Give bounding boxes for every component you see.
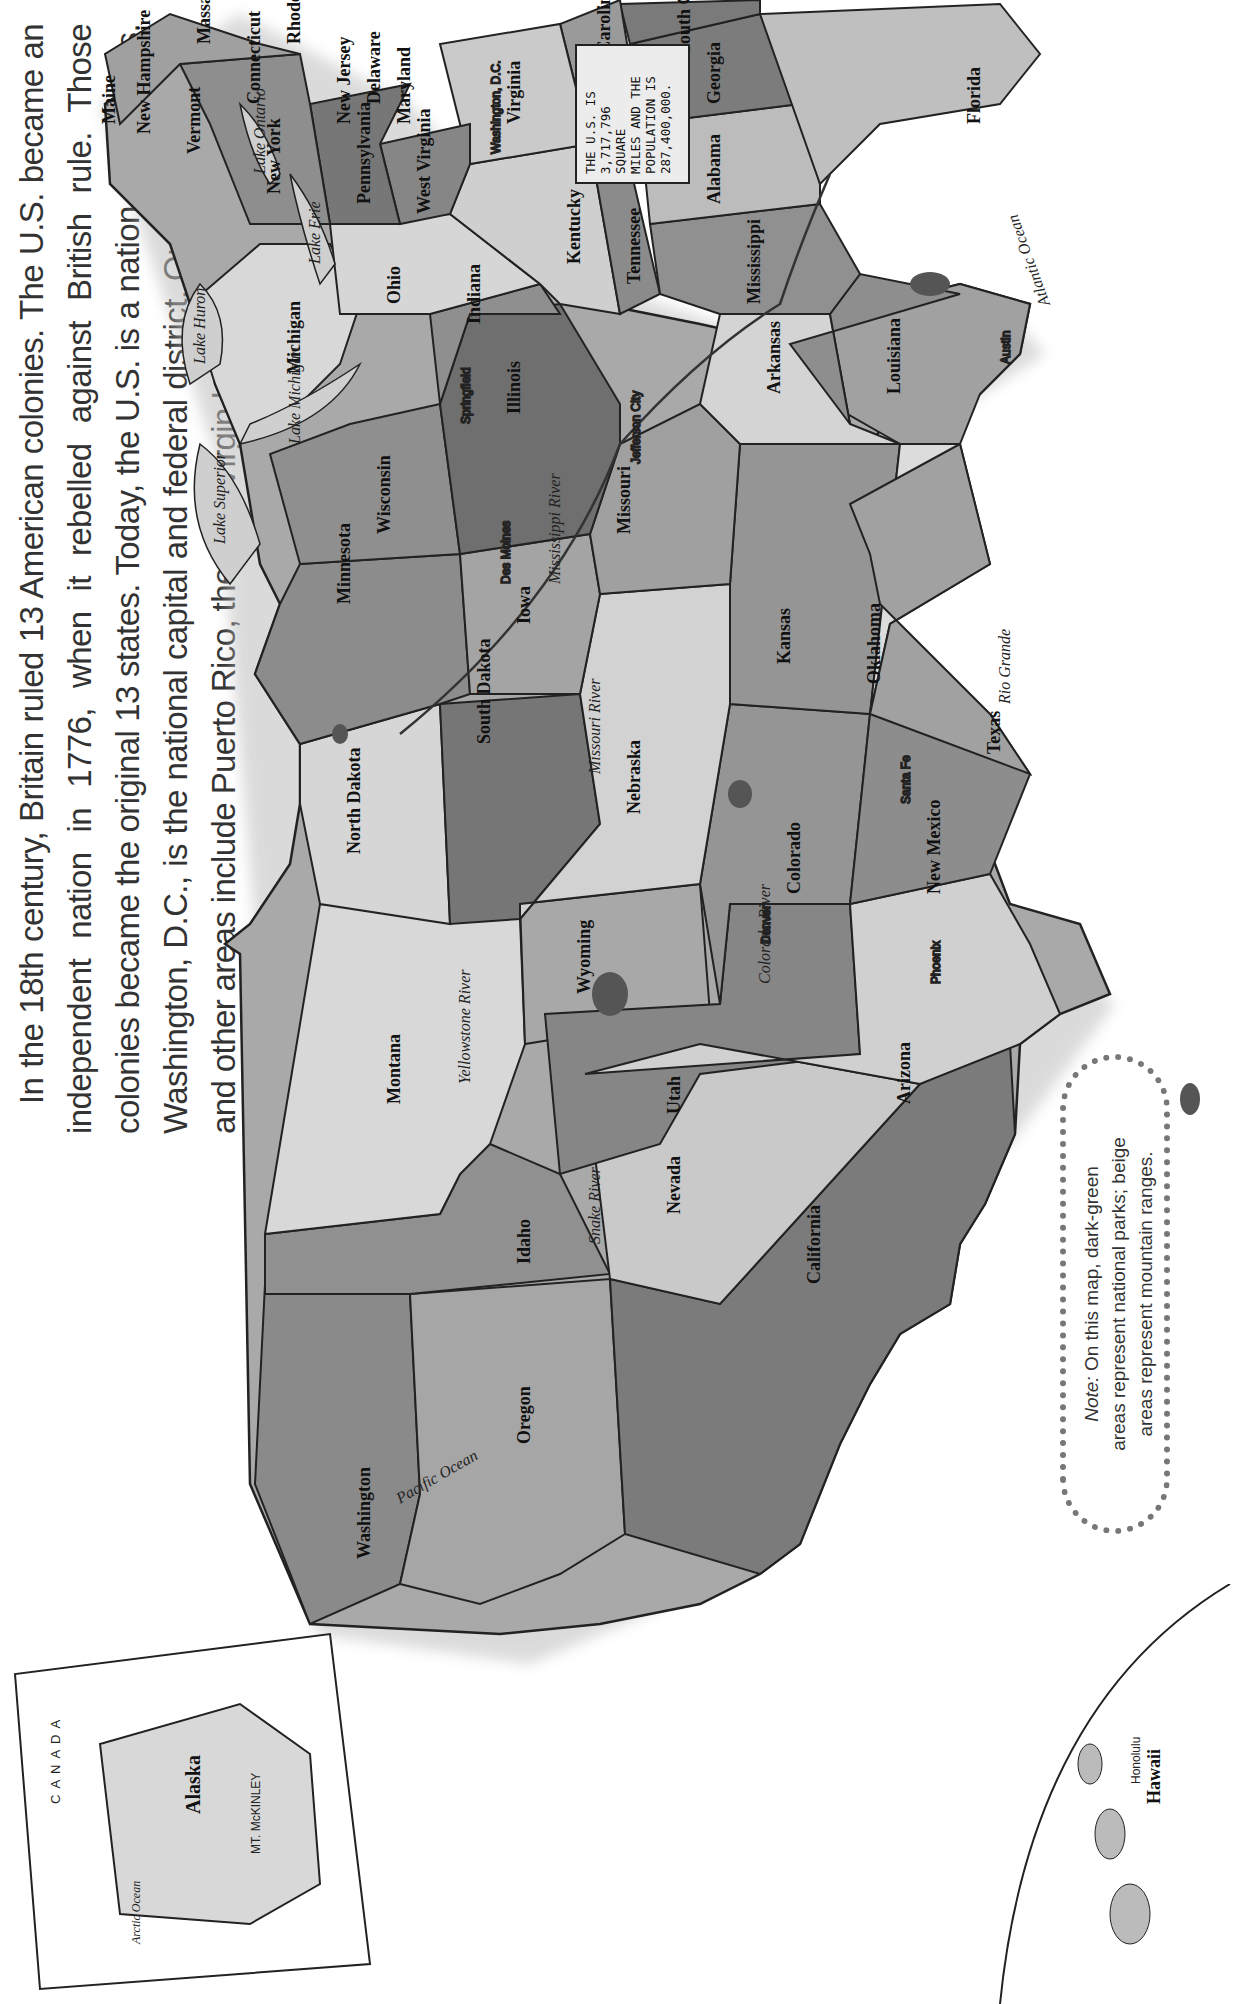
svg-text:Iowa: Iowa: [514, 586, 534, 624]
svg-text:Maryland: Maryland: [394, 47, 414, 124]
svg-text:Denver: Denver: [759, 905, 773, 944]
svg-text:Phoenix: Phoenix: [929, 941, 943, 984]
svg-text:Oklahoma: Oklahoma: [864, 603, 884, 684]
legend-note: Note: On this map, dark-green areas repr…: [1060, 1054, 1170, 1534]
rotated-map-page: In the 18th century, Britain ruled 13 Am…: [0, 0, 1233, 2004]
svg-text:Arkansas: Arkansas: [764, 321, 784, 394]
svg-text:CANADA: CANADA: [48, 1714, 63, 1804]
svg-text:South Dakota: South Dakota: [474, 638, 494, 744]
svg-text:Nevada: Nevada: [664, 1156, 684, 1214]
svg-text:Nebraska: Nebraska: [624, 740, 644, 814]
svg-text:Kansas: Kansas: [774, 608, 794, 664]
svg-text:Pennsylvania: Pennsylvania: [354, 102, 374, 204]
svg-text:MT. McKINLEY: MT. McKINLEY: [249, 1773, 263, 1854]
svg-text:Lake Ontario: Lake Ontario: [251, 88, 268, 175]
svg-text:Florida: Florida: [964, 67, 984, 124]
svg-text:New Mexico: New Mexico: [924, 800, 944, 894]
svg-text:Indiana: Indiana: [464, 264, 484, 324]
svg-text:Idaho: Idaho: [514, 1219, 534, 1264]
svg-text:Colorado: Colorado: [784, 822, 804, 894]
svg-text:Arctic Ocean: Arctic Ocean: [129, 1881, 143, 1945]
svg-text:Honolulu: Honolulu: [1129, 1737, 1143, 1784]
svg-text:Delaware: Delaware: [364, 31, 384, 104]
svg-text:Missouri: Missouri: [614, 466, 634, 534]
svg-text:Kentucky: Kentucky: [564, 189, 584, 264]
svg-text:Arizona: Arizona: [894, 1042, 914, 1104]
svg-text:Snake River: Snake River: [586, 1166, 603, 1244]
svg-text:Georgia: Georgia: [704, 42, 724, 104]
svg-text:North Dakota: North Dakota: [344, 748, 364, 855]
svg-text:Massachusetts: Massachusetts: [194, 0, 214, 44]
svg-text:Alabama: Alabama: [704, 134, 724, 204]
svg-text:Lake Erie: Lake Erie: [306, 201, 323, 265]
svg-text:Mississippi River: Mississippi River: [546, 473, 564, 585]
svg-text:California: California: [804, 1205, 824, 1284]
svg-text:Springfield: Springfield: [459, 367, 473, 424]
svg-text:Oregon: Oregon: [514, 1386, 534, 1444]
svg-text:Ohio: Ohio: [384, 266, 404, 304]
svg-text:Texas: Texas: [984, 711, 1004, 754]
svg-text:Jefferson City: Jefferson City: [629, 391, 643, 464]
svg-text:New Hampshire: New Hampshire: [134, 10, 154, 134]
svg-text:Wyoming: Wyoming: [574, 920, 594, 994]
svg-text:New Jersey: New Jersey: [334, 37, 354, 124]
svg-text:Lake Michigan: Lake Michigan: [286, 348, 304, 445]
svg-text:Atlantic Ocean: Atlantic Ocean: [1004, 212, 1053, 309]
svg-text:Lake Huron: Lake Huron: [191, 288, 208, 365]
svg-text:Louisiana: Louisiana: [884, 318, 904, 394]
svg-text:Wisconsin: Wisconsin: [374, 455, 394, 534]
svg-text:West Virginia: West Virginia: [414, 108, 434, 214]
svg-text:Des Moines: Des Moines: [499, 521, 513, 584]
svg-text:Hawaii: Hawaii: [1144, 1749, 1164, 1804]
svg-text:Alaska: Alaska: [182, 1755, 204, 1814]
svg-text:Maine: Maine: [99, 75, 119, 124]
svg-text:Lake Superior: Lake Superior: [211, 452, 229, 545]
svg-text:Santa Fe: Santa Fe: [899, 755, 913, 804]
state-washington: [255, 1284, 420, 1624]
svg-text:Rhode Island: Rhode Island: [284, 0, 304, 44]
fact-box: THE U.S. IS 3,717,796 SQUARE MILES AND T…: [575, 44, 690, 184]
svg-text:Yellowstone River: Yellowstone River: [456, 969, 473, 1084]
svg-text:Missouri River: Missouri River: [586, 678, 603, 775]
svg-text:Vermont: Vermont: [184, 87, 204, 154]
svg-text:Utah: Utah: [664, 1076, 684, 1114]
svg-text:Illinois: Illinois: [504, 361, 524, 414]
svg-text:Tennessee: Tennessee: [624, 208, 644, 284]
svg-text:Mississippi: Mississippi: [744, 219, 764, 304]
svg-text:Montana: Montana: [384, 1034, 404, 1104]
svg-text:Rio Grande: Rio Grande: [996, 629, 1013, 705]
alaska-inset: Alaska CANADA MT. McKINLEY Arctic Ocean: [0, 1584, 400, 2004]
svg-text:Virginia: Virginia: [504, 61, 524, 124]
svg-text:Washington: Washington: [354, 1467, 374, 1559]
svg-text:Washington, D.C.: Washington, D.C.: [489, 60, 503, 154]
state-oregon: [400, 1279, 625, 1604]
svg-text:Austin: Austin: [999, 331, 1013, 364]
svg-text:Minnesota: Minnesota: [334, 523, 354, 604]
hawaii-inset: Hawaii Honolulu: [990, 1584, 1233, 2004]
